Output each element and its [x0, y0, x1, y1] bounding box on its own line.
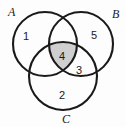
region-count-c-only: 2 [59, 89, 65, 101]
venn-diagram: A B C 1 5 2 3 4 [0, 0, 126, 127]
venn-diagram-canvas: A B C 1 5 2 3 4 [0, 0, 126, 127]
set-label-a: A [7, 5, 16, 19]
region-count-b-and-c: 3 [76, 64, 82, 76]
region-count-a-only: 1 [23, 30, 29, 42]
region-count-b-only: 5 [91, 29, 97, 41]
set-label-c: C [62, 112, 71, 126]
region-count-a-and-b-and-c: 4 [59, 50, 65, 62]
set-label-b: B [112, 7, 120, 21]
